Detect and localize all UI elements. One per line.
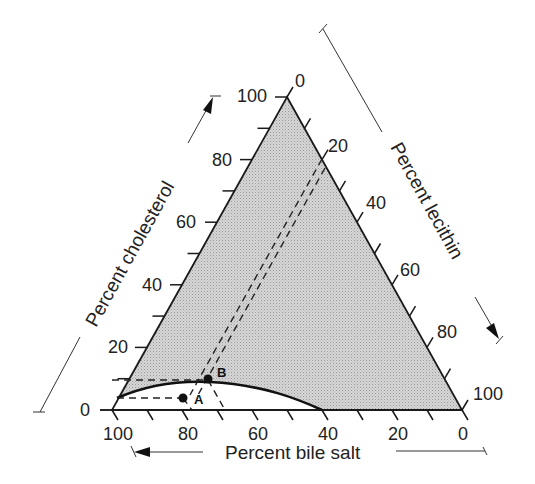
svg-text:0: 0: [295, 71, 305, 91]
svg-text:80: 80: [178, 424, 198, 444]
point-a: [179, 394, 188, 403]
bile-salt-ticks: [112, 410, 468, 420]
lecithin-axis-title: Percent lecithin: [387, 139, 468, 263]
point-b: [204, 375, 213, 384]
svg-text:100: 100: [103, 424, 133, 444]
svg-text:80: 80: [437, 322, 457, 342]
bile-salt-arrow-icon: [134, 447, 150, 457]
svg-text:0: 0: [458, 424, 468, 444]
svg-text:40: 40: [366, 193, 386, 213]
svg-text:60: 60: [248, 424, 268, 444]
svg-text:0: 0: [80, 400, 90, 420]
svg-text:40: 40: [142, 275, 162, 295]
cholesterol-axis-title: Percent cholesterol: [81, 177, 178, 329]
shaded-region: [117, 97, 462, 410]
bile-salt-tick-labels: 100 80 60 40 20 0: [103, 424, 468, 444]
svg-text:80: 80: [212, 150, 232, 170]
svg-text:60: 60: [400, 260, 420, 280]
bile-salt-axis-title-group: Percent bile salt: [131, 442, 487, 463]
ternary-diagram: A B 0 20 40 60 80 100 0 20 40 60 80 100 …: [0, 0, 535, 484]
bile-salt-axis-title: Percent bile salt: [225, 442, 361, 463]
svg-text:20: 20: [108, 337, 128, 357]
point-a-label: A: [194, 392, 204, 407]
svg-text:100: 100: [473, 384, 503, 404]
svg-text:40: 40: [318, 424, 338, 444]
cholesterol-arrow-icon: [203, 97, 213, 114]
svg-text:20: 20: [328, 136, 348, 156]
svg-text:20: 20: [388, 424, 408, 444]
svg-text:60: 60: [176, 212, 196, 232]
lecithin-arrow-icon: [486, 323, 499, 339]
point-b-label: B: [217, 365, 226, 380]
svg-text:100: 100: [237, 86, 267, 106]
